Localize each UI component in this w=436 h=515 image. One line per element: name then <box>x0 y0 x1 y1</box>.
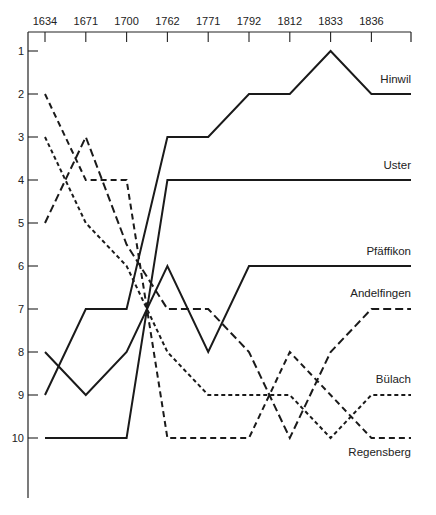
y-tick-label: 1 <box>18 45 24 57</box>
y-tick-label: 5 <box>18 217 24 229</box>
y-tick-label: 2 <box>18 88 24 100</box>
x-tick-label: 1833 <box>318 15 342 27</box>
series-line-pfäffikon <box>45 266 411 395</box>
y-tick-label: 3 <box>18 131 24 143</box>
x-tick-label: 1771 <box>196 15 220 27</box>
x-tick-label: 1836 <box>359 15 383 27</box>
x-tick-label: 1762 <box>155 15 179 27</box>
x-tick-label: 1634 <box>33 15 57 27</box>
rank-line-chart: 163416711700176217711792181218331836 123… <box>0 0 436 515</box>
x-tick-label: 1700 <box>114 15 138 27</box>
y-tick-label: 6 <box>18 260 24 272</box>
y-tick-label: 4 <box>18 174 24 186</box>
series-lines <box>45 51 411 438</box>
series-label: Uster <box>384 159 412 171</box>
series-label: Hinwil <box>380 73 411 85</box>
series-label: Pfäffikon <box>366 245 411 257</box>
series-line-hinwil <box>45 51 411 395</box>
series-label: Bülach <box>376 373 411 385</box>
series-label: Regensberg <box>348 446 411 458</box>
y-axis-ticks: 12345678910 <box>12 45 38 444</box>
y-tick-label: 9 <box>18 389 24 401</box>
y-tick-label: 7 <box>18 303 24 315</box>
x-axis-ticks: 163416711700176217711792181218331836 <box>33 15 384 42</box>
y-tick-label: 8 <box>18 346 24 358</box>
y-tick-label: 10 <box>12 432 24 444</box>
x-tick-label: 1812 <box>278 15 302 27</box>
x-tick-label: 1792 <box>237 15 261 27</box>
x-tick-label: 1671 <box>74 15 98 27</box>
series-label: Andelfingen <box>350 287 411 299</box>
